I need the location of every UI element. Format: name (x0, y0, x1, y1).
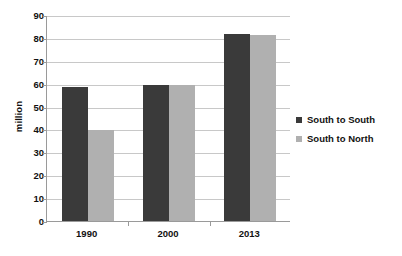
y-tick-mark (43, 199, 47, 200)
y-tick-label: 10 (24, 194, 44, 204)
y-axis-title-label: million (14, 100, 25, 131)
y-tick-label: 30 (24, 149, 44, 159)
y-tick-mark (43, 176, 47, 177)
y-tick-mark (43, 153, 47, 154)
bar-south-to-south-1990 (62, 87, 88, 222)
y-tick-label: 70 (24, 57, 44, 67)
bar-chart-figure: million 0102030405060708090 199020002013… (0, 0, 402, 256)
bar-group (143, 16, 195, 222)
y-tick-label: 50 (24, 103, 44, 113)
bar-south-to-south-2000 (143, 85, 169, 222)
x-category-separator (210, 222, 211, 226)
bar-group (62, 16, 114, 222)
legend-swatch-icon (296, 117, 302, 123)
y-tick-mark (43, 108, 47, 109)
y-tick-label: 40 (24, 126, 44, 136)
y-tick-mark (43, 62, 47, 63)
x-tick-label: 2000 (157, 228, 178, 239)
x-tick-label: 2013 (239, 228, 260, 239)
x-category-separator (128, 222, 129, 226)
bar-group (224, 16, 276, 222)
plot-area (46, 16, 290, 222)
chart-legend: South to South South to North (296, 110, 396, 148)
y-tick-label: 0 (24, 217, 44, 227)
y-tick-mark (43, 16, 47, 17)
y-tick-mark (43, 85, 47, 86)
bar-south-to-north-1990 (88, 130, 114, 222)
y-tick-mark (43, 39, 47, 40)
y-tick-label: 20 (24, 171, 44, 181)
legend-item-label: South to South (307, 114, 375, 125)
bar-south-to-south-2013 (224, 34, 250, 222)
x-axis-line (47, 221, 290, 222)
bar-south-to-north-2013 (250, 35, 276, 222)
bars-layer (47, 16, 290, 222)
bar-south-to-north-2000 (169, 85, 195, 222)
legend-item-label: South to North (307, 133, 373, 144)
y-tick-label: 80 (24, 34, 44, 44)
x-axis-tick-labels: 199020002013 (46, 228, 290, 246)
x-tick-label: 1990 (76, 228, 97, 239)
y-tick-mark (43, 222, 47, 223)
legend-swatch-icon (296, 136, 302, 142)
y-tick-label: 60 (24, 80, 44, 90)
y-tick-mark (43, 130, 47, 131)
legend-item-south-to-south: South to South (296, 110, 396, 129)
legend-item-south-to-north: South to North (296, 129, 396, 148)
y-axis-tick-labels: 0102030405060708090 (24, 16, 44, 222)
y-tick-label: 90 (24, 11, 44, 21)
